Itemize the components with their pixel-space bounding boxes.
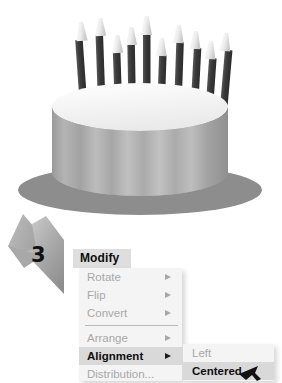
menu-item-label: Flip — [87, 289, 106, 301]
chevron-right-icon — [165, 274, 171, 280]
menu-separator — [85, 325, 178, 326]
menu-item-convert[interactable]: Convert — [79, 304, 182, 322]
menu-item-label: Arrange — [87, 332, 128, 344]
chevron-right-icon — [165, 292, 171, 298]
step-number: 3 — [31, 245, 45, 266]
menu-title-modify[interactable]: Modify — [73, 249, 131, 268]
menu-item-distribution[interactable]: Distribution... — [79, 365, 182, 383]
cake-top — [52, 83, 228, 131]
submenu-item-label: Centered — [192, 365, 242, 377]
menu-item-rotate[interactable]: Rotate — [79, 268, 182, 286]
mouse-pointer-icon — [238, 364, 262, 382]
chevron-right-icon — [165, 353, 171, 359]
menu-item-label: Convert — [87, 307, 127, 319]
chevron-right-icon — [165, 335, 171, 341]
submenu-item-label: Left — [192, 347, 211, 359]
modify-menu: Rotate Flip Convert Arrange Alignment Di… — [79, 268, 182, 381]
menu-item-arrange[interactable]: Arrange — [79, 329, 182, 347]
submenu-item-left[interactable]: Left — [183, 344, 274, 362]
menu-item-label: Rotate — [87, 271, 121, 283]
chevron-right-icon — [165, 310, 171, 316]
menu-item-flip[interactable]: Flip — [79, 286, 182, 304]
menu-item-alignment[interactable]: Alignment — [79, 347, 182, 365]
menu-item-label: Alignment — [87, 350, 143, 362]
menu-item-label: Distribution... — [87, 368, 154, 380]
birthday-cake-illustration — [0, 0, 274, 225]
